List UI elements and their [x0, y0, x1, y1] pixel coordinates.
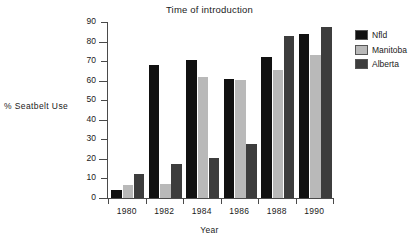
legend-swatch-icon [355, 30, 368, 40]
x-tick [183, 199, 184, 204]
y-tick-label: 40 [74, 114, 96, 124]
y-tick [101, 61, 108, 62]
x-tick [108, 199, 109, 204]
y-tick-label: 30 [74, 133, 96, 143]
y-tick-label: 80 [74, 36, 96, 46]
y-tick-label: 60 [74, 75, 96, 85]
bar-nfld-1990 [299, 34, 310, 198]
y-tick [101, 22, 108, 23]
bar-alberta-1980 [134, 174, 145, 198]
y-axis-label: % Seatbelt Use [4, 101, 68, 111]
legend-swatch-icon [355, 45, 368, 55]
y-tick-label: 50 [74, 94, 96, 104]
x-tick-label: 1990 [292, 206, 336, 216]
y-tick-label: 70 [74, 55, 96, 65]
bar-nfld-1982 [149, 65, 160, 198]
y-tick-label: 10 [74, 172, 96, 182]
y-tick [101, 139, 108, 140]
x-tick [146, 199, 147, 204]
bar-nfld-1988 [261, 57, 272, 198]
legend-swatch-icon [355, 59, 368, 69]
bar-manitoba-1984 [198, 77, 209, 198]
x-tick [221, 199, 222, 204]
bar-alberta-1984 [209, 158, 220, 198]
y-tick [101, 100, 108, 101]
bar-alberta-1990 [321, 27, 332, 198]
legend-label: Manitoba [372, 45, 407, 55]
bar-alberta-1982 [171, 164, 182, 198]
bar-manitoba-1986 [235, 80, 246, 198]
legend-label: Nfld [372, 30, 387, 40]
y-tick [99, 42, 108, 43]
legend: NfldManitobaAlberta [355, 30, 407, 74]
x-tick [333, 199, 334, 204]
y-tick [99, 81, 108, 82]
bar-manitoba-1980 [123, 185, 134, 198]
bar-manitoba-1990 [310, 55, 321, 198]
bar-manitoba-1982 [160, 184, 171, 198]
x-axis-label: Year [0, 225, 419, 235]
bar-manitoba-1988 [273, 70, 284, 198]
y-tick [101, 178, 108, 179]
bar-nfld-1980 [111, 190, 122, 198]
plot-area [108, 22, 333, 198]
x-tick [296, 199, 297, 204]
y-tick [99, 198, 108, 199]
bar-nfld-1984 [186, 60, 197, 198]
bar-alberta-1986 [246, 144, 257, 198]
y-tick-label: 20 [74, 153, 96, 163]
y-tick-label: 0 [74, 192, 96, 202]
legend-item-nfld: Nfld [355, 30, 407, 40]
chart-title: Time of introduction [0, 4, 419, 15]
y-tick-label: 90 [74, 16, 96, 26]
bar-nfld-1986 [224, 79, 235, 198]
y-tick [99, 120, 108, 121]
legend-item-manitoba: Manitoba [355, 45, 407, 55]
bar-chart: Time of introduction % Seatbelt Use Year… [0, 0, 419, 243]
legend-label: Alberta [372, 59, 399, 69]
y-tick [99, 159, 108, 160]
bar-alberta-1988 [284, 36, 295, 198]
legend-item-alberta: Alberta [355, 59, 407, 69]
x-tick [258, 199, 259, 204]
